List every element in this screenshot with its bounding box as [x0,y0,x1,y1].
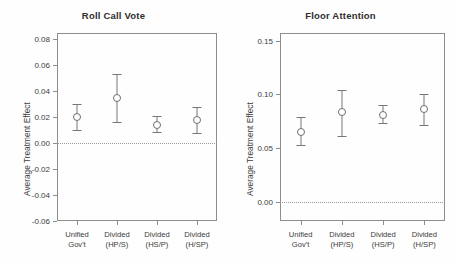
data-point-marker [193,116,201,124]
x-tick-label-line: (HS/P) [370,240,395,250]
x-tick-mark [117,221,118,225]
error-bar-cap [73,130,82,131]
error-bar-cap [113,74,122,75]
y-tick-mark [53,221,57,222]
x-tick-label-line: Unified [289,230,313,240]
x-tick-label-line: Divided [370,230,395,240]
data-point-marker [297,128,305,136]
y-tick-label: 0.06 [0,61,50,70]
error-bar-cap [420,125,429,126]
x-tick-mark [301,221,302,225]
x-tick-mark [383,221,384,225]
y-tick-label: 0.08 [0,35,50,44]
y-tick-mark [276,148,280,149]
error-bar-cap [296,117,305,118]
data-point-marker [420,105,428,113]
x-tick-label: Divided(HP/S) [329,230,354,250]
x-tick-label-line: (HP/S) [104,240,129,250]
plot-area-left [57,33,217,221]
error-bar-cap [379,123,388,124]
panel-roll-call-vote: Roll Call Vote Average Treatment Effect … [0,0,227,261]
error-bar-cap [420,94,429,95]
y-tick-mark [53,117,57,118]
error-bar-cap [379,105,388,106]
y-tick-label: -0.04 [0,191,50,200]
y-tick-label: -0.06 [0,217,50,226]
error-bar-cap [113,122,122,123]
error-bar-cap [193,133,202,134]
x-tick-label: Divided(HP/S) [104,230,129,250]
y-tick-label: 0.02 [0,113,50,122]
x-tick-label-line: Divided [104,230,129,240]
y-tick-label: 0.05 [227,143,273,152]
x-tick-label-line: Divided [412,230,437,240]
zero-reference-line [57,143,217,144]
y-tick-mark [53,91,57,92]
x-tick-label: Divided(H/SP) [184,230,209,250]
y-tick-label: 0.10 [227,90,273,99]
x-tick-mark [197,221,198,225]
x-tick-mark [342,221,343,225]
error-bar-cap [73,104,82,105]
y-tick-label: 0.00 [227,197,273,206]
x-tick-label: UnifiedGov't [65,230,89,250]
x-tick-label: Divided(H/SP) [412,230,437,250]
x-tick-label-line: Divided [329,230,354,240]
error-bar-cap [337,136,346,137]
y-tick-label: -0.02 [0,165,50,174]
y-tick-mark [53,39,57,40]
x-tick-mark [157,221,158,225]
panel-title-right: Floor Attention [227,10,454,21]
error-bar-cap [337,90,346,91]
data-point-marker [338,108,346,116]
x-tick-label: Divided(HS/P) [144,230,169,250]
panel-floor-attention: Floor Attention Average Treatment Effect… [227,0,454,261]
y-tick-label: 0.00 [0,139,50,148]
x-tick-label-line: Gov't [289,240,313,250]
error-bar-cap [153,132,162,133]
error-bar-cap [193,107,202,108]
zero-reference-line [280,202,445,203]
x-tick-label: UnifiedGov't [289,230,313,250]
y-tick-mark [53,65,57,66]
plot-area-right [280,33,445,221]
y-tick-mark [53,195,57,196]
x-tick-label-line: Gov't [65,240,89,250]
figure-canvas: Roll Call Vote Average Treatment Effect … [0,0,454,261]
x-tick-label-line: (H/SP) [412,240,437,250]
data-point-marker [73,113,81,121]
error-bar-cap [153,116,162,117]
x-tick-label: Divided(HS/P) [370,230,395,250]
x-tick-label-line: Unified [65,230,89,240]
x-tick-label-line: (HP/S) [329,240,354,250]
x-tick-mark [77,221,78,225]
data-point-marker [113,94,121,102]
x-tick-label-line: Divided [184,230,209,240]
data-point-marker [153,121,161,129]
x-tick-label-line: (H/SP) [184,240,209,250]
y-tick-mark [53,169,57,170]
y-tick-mark [276,41,280,42]
y-tick-label: 0.04 [0,87,50,96]
panel-title-left: Roll Call Vote [0,10,227,21]
x-tick-label-line: (HS/P) [144,240,169,250]
y-tick-mark [276,94,280,95]
error-bar-cap [296,145,305,146]
x-tick-label-line: Divided [144,230,169,240]
data-point-marker [379,111,387,119]
y-tick-label: 0.15 [227,36,273,45]
x-tick-mark [424,221,425,225]
